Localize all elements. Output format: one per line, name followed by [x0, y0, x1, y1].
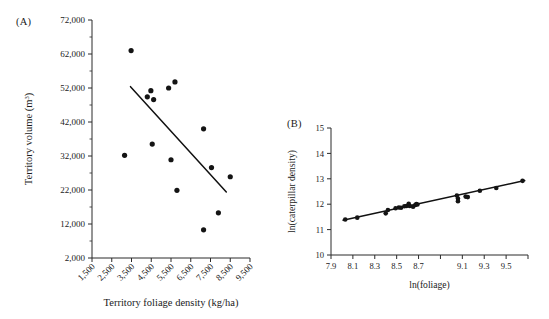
panel-a-data-point	[209, 165, 214, 170]
panel-a-xtick-label: 1,500	[76, 261, 98, 283]
panel-a-xtick-label: 6,500	[174, 261, 196, 283]
panel-b-data-point	[478, 188, 483, 193]
panel-b-xtick-label: 9.5	[501, 261, 512, 271]
svg-text:ln(caterpillar density): ln(caterpillar density)	[286, 150, 298, 233]
panel-b-yaxis-title: ln(caterpillar density)	[286, 150, 298, 233]
panel-b-xtick-label: 9.1	[457, 261, 468, 271]
panel-b-ytick-label: 15	[315, 123, 324, 133]
panel-a-data-point	[172, 79, 177, 84]
panel-a-data-point	[145, 94, 150, 99]
panel-b-data-point	[355, 215, 360, 220]
panel-a-data-point	[168, 157, 173, 162]
panel-b: (B) 1011121314157.98.18.38.58.79.19.39.5…	[275, 110, 549, 319]
figure-root: (A) 2,00012,00022,00032,00042,00052,0006…	[0, 0, 549, 319]
svg-text:Territory volume (m3): Territory volume (m3)	[23, 92, 35, 185]
panel-b-data-point	[386, 208, 391, 213]
panel-b-xtick-label: 9.3	[479, 261, 490, 271]
panel-a-ytick-label: 42,000	[60, 117, 85, 127]
panel-b-plot: 1011121314157.98.18.38.58.79.19.39.5ln(f…	[275, 110, 549, 319]
panel-b-ytick-label: 12	[315, 199, 324, 209]
panel-b-xtick-label: 8.7	[413, 261, 424, 271]
panel-a-regression-line	[131, 87, 227, 192]
panel-a-xtick-label: 8,500	[214, 261, 236, 283]
panel-a-data-point	[166, 85, 171, 90]
panel-a-ytick-label: 72,000	[60, 15, 85, 25]
panel-a-data-point	[122, 153, 127, 158]
panel-a: (A) 2,00012,00022,00032,00042,00052,0006…	[0, 0, 285, 319]
panel-a-data-point	[151, 97, 156, 102]
panel-a-ytick-label: 22,000	[60, 185, 85, 195]
panel-a-yaxis-title: Territory volume (m3)	[23, 92, 35, 185]
panel-a-ytick-label: 52,000	[60, 83, 85, 93]
panel-a-xtick-label: 5,500	[155, 261, 177, 283]
panel-a-data-point	[150, 142, 155, 147]
panel-b-data-point	[494, 186, 499, 191]
panel-a-data-point	[201, 227, 206, 232]
panel-b-data-point	[520, 179, 525, 184]
panel-a-data-point	[174, 188, 179, 193]
panel-b-data-point	[343, 217, 348, 222]
panel-a-ytick-label: 62,000	[60, 49, 85, 59]
panel-a-data-point	[129, 48, 134, 53]
panel-b-ytick-label: 10	[315, 250, 324, 260]
panel-a-axes	[92, 20, 250, 258]
panel-b-xaxis-title: ln(foliage)	[409, 279, 450, 291]
panel-b-data-point	[456, 199, 461, 204]
panel-a-ytick-label: 32,000	[60, 151, 85, 161]
panel-b-xtick-label: 7.9	[326, 261, 337, 271]
panel-b-ytick-label: 14	[315, 149, 324, 159]
panel-a-data-point	[228, 174, 233, 179]
panel-b-axes	[331, 128, 528, 255]
panel-a-data-point	[201, 126, 206, 131]
panel-a-xtick-label: 7,500	[194, 261, 216, 283]
panel-a-ytick-label: 12,000	[60, 219, 85, 229]
panel-a-xaxis-title: Territory foliage density (kg/ha)	[104, 297, 239, 309]
panel-a-xtick-label: 2,500	[95, 261, 117, 283]
panel-b-ytick-label: 13	[315, 174, 324, 184]
panel-b-xtick-label: 8.1	[348, 261, 359, 271]
panel-b-data-point	[415, 202, 420, 207]
panel-b-ytick-label: 11	[316, 225, 324, 235]
panel-b-xtick-label: 8.5	[391, 261, 402, 271]
panel-a-ytick-label: 2,000	[65, 253, 86, 263]
panel-b-data-point	[466, 195, 471, 200]
panel-a-xtick-label: 4,500	[135, 261, 157, 283]
panel-a-xtick-label: 3,500	[115, 261, 137, 283]
panel-b-xtick-label: 8.3	[369, 261, 380, 271]
panel-a-plot: 2,00012,00022,00032,00042,00052,00062,00…	[0, 0, 285, 319]
panel-a-data-point	[148, 88, 153, 93]
panel-a-data-point	[216, 210, 221, 215]
panel-a-xtick-label: 9,500	[234, 261, 256, 283]
